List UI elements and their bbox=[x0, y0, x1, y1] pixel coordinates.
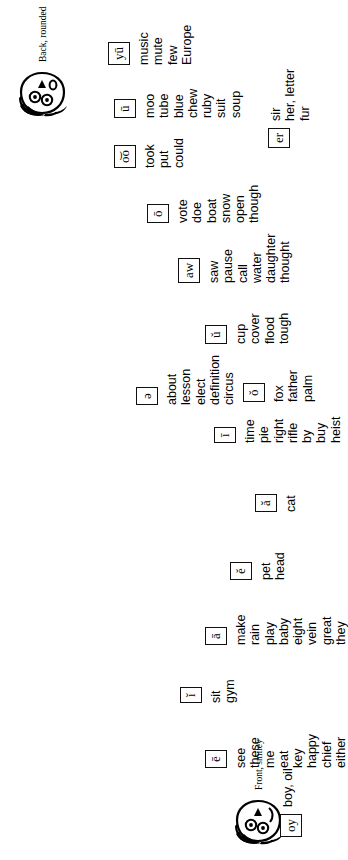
word: eight bbox=[291, 618, 305, 645]
word-list-oo: took put could bbox=[143, 138, 186, 168]
word: heist bbox=[329, 417, 343, 443]
word: buy bbox=[314, 423, 328, 443]
front-smiley-icon bbox=[234, 794, 284, 846]
word: happy bbox=[305, 734, 319, 768]
vowel-symbol-oy: oy bbox=[280, 814, 302, 837]
word: thought bbox=[278, 241, 292, 283]
word: vein bbox=[305, 622, 319, 645]
word: eat bbox=[277, 751, 291, 768]
word: elect bbox=[194, 379, 208, 405]
vowel-symbol-short-a: ă bbox=[255, 494, 277, 512]
vowel-symbol-schwa: ə bbox=[136, 387, 158, 405]
word-list-schwa: about lesson elect definition circus bbox=[165, 355, 236, 405]
face-caption: Back, rounded bbox=[38, 7, 48, 62]
word: ruby bbox=[200, 94, 214, 118]
word: open bbox=[233, 195, 247, 223]
word: vote bbox=[176, 199, 190, 223]
word-list-short-i: sit gym bbox=[209, 679, 238, 703]
word: tube bbox=[157, 94, 171, 118]
word: mute bbox=[151, 37, 165, 65]
word-list-short-o: fox father palm bbox=[272, 370, 315, 402]
word: cover bbox=[248, 313, 262, 344]
word: daughter bbox=[264, 234, 278, 283]
word: great bbox=[320, 617, 334, 646]
word-list-oy: boy, oil bbox=[280, 768, 295, 807]
word-list-short-e: pet head bbox=[259, 552, 288, 580]
word: suit bbox=[214, 99, 228, 118]
word: pie bbox=[257, 426, 271, 443]
word: right bbox=[272, 419, 286, 443]
word: pet bbox=[259, 563, 273, 580]
word: by bbox=[300, 430, 314, 443]
word-list-long-e: see these me eat key happy chief either bbox=[234, 734, 348, 768]
vowel-group-long-u: ū moo tube blue chew ruby suit soup bbox=[114, 89, 243, 118]
word: circus bbox=[222, 372, 236, 405]
vowel-symbol-er: er bbox=[268, 128, 290, 148]
word: tough bbox=[277, 313, 291, 344]
word: moo bbox=[143, 94, 157, 118]
word: lesson bbox=[179, 369, 193, 405]
vowel-group-long-i: ī time pie right rifle by buy heist bbox=[214, 417, 343, 443]
vowel-symbol-oo: o͝o bbox=[114, 145, 136, 168]
word: rifle bbox=[286, 423, 300, 443]
word: see bbox=[234, 748, 248, 768]
word: took bbox=[143, 144, 157, 168]
vowel-group-er: er sir her, letter fur bbox=[268, 69, 312, 148]
word: father bbox=[286, 370, 300, 402]
vowel-symbol-short-u: ŭ bbox=[205, 326, 227, 345]
vowel-group-schwa: ə about lesson elect definition circus bbox=[136, 355, 236, 405]
vowel-group-long-e: ē see these me eat key happy chief eithe… bbox=[205, 734, 348, 768]
word: either bbox=[334, 737, 348, 768]
vowel-symbol-long-a: ā bbox=[205, 627, 227, 645]
word-list-long-a: make rain play baby eight vein great the… bbox=[234, 614, 348, 645]
vowel-symbol-long-i: ī bbox=[214, 427, 236, 443]
word: make bbox=[234, 614, 248, 645]
word: rain bbox=[248, 624, 262, 645]
word: soup bbox=[229, 91, 243, 118]
word: fur bbox=[298, 106, 312, 121]
word: they bbox=[334, 621, 348, 645]
word: me bbox=[263, 751, 277, 768]
word: boy, oil bbox=[281, 768, 295, 807]
vowel-symbol-long-e: ē bbox=[205, 750, 227, 768]
word: key bbox=[291, 749, 305, 768]
word: pause bbox=[221, 249, 235, 283]
word: music bbox=[137, 32, 151, 65]
word: cat bbox=[284, 495, 298, 512]
word-list-long-i: time pie right rifle by buy heist bbox=[243, 417, 343, 443]
word: baby bbox=[277, 618, 291, 645]
word: chief bbox=[320, 742, 334, 768]
word: cup bbox=[234, 324, 248, 344]
vowel-symbol-short-i: ĭ bbox=[180, 687, 202, 703]
word-list-short-a: cat bbox=[284, 495, 298, 512]
word: though bbox=[247, 185, 261, 223]
word: play bbox=[263, 622, 277, 645]
word-list-long-o: vote doe boat snow open though bbox=[176, 185, 262, 223]
word: flood bbox=[263, 317, 277, 344]
vowel-symbol-short-o: ŏ bbox=[243, 384, 265, 403]
word: palm bbox=[301, 375, 315, 402]
vowel-group-short-a: ă cat bbox=[255, 494, 298, 512]
word: blue bbox=[172, 94, 186, 118]
vowel-group-short-i: ĭ sit gym bbox=[180, 679, 238, 703]
vowel-symbol-aw: aw bbox=[178, 258, 200, 283]
vowel-group-long-o: ō vote doe boat snow open though bbox=[147, 185, 262, 223]
word: put bbox=[157, 151, 171, 168]
vowel-symbol-yu: yū bbox=[108, 42, 130, 65]
word: fox bbox=[272, 385, 286, 402]
vowel-symbol-short-e: ĕ bbox=[230, 562, 252, 580]
word: water bbox=[250, 252, 264, 283]
vowel-group-oo: o͝o took put could bbox=[114, 138, 186, 168]
word: few bbox=[166, 46, 180, 65]
word: about bbox=[165, 374, 179, 405]
word-list-yu: music mute few Europe bbox=[137, 25, 194, 65]
face-back-rounded: Back, rounded bbox=[18, 7, 68, 118]
vowel-group-yu: yū music mute few Europe bbox=[108, 25, 194, 65]
word: definition bbox=[208, 355, 222, 405]
vowel-group-short-o: ŏ fox father palm bbox=[243, 370, 315, 402]
word: chew bbox=[186, 89, 200, 118]
word: her, letter bbox=[283, 69, 297, 121]
word-list-er: sir her, letter fur bbox=[268, 69, 312, 121]
word: gym bbox=[223, 679, 237, 703]
